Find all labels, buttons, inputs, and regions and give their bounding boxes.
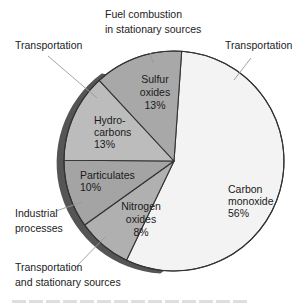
source-label-line: Transportation: [15, 39, 82, 51]
pie-chart: Carbonmonoxide56%Nitrogenoxides8%Particu…: [0, 0, 298, 305]
slice-label-line: Hydro-: [94, 114, 126, 126]
slice-label-line: Sulfur: [141, 73, 169, 85]
slice-label-line: 13%: [144, 99, 165, 111]
slice-label-line: oxides: [140, 86, 170, 98]
source-label-sulfur-oxides: Fuel combustionin stationary sources: [105, 8, 201, 35]
source-label-line: Fuel combustion: [105, 8, 182, 20]
source-label-line: and stationary sources: [15, 276, 121, 288]
source-label-line: Transportation: [15, 261, 82, 273]
source-label-line: processes: [15, 222, 63, 234]
source-label-line: Industrial: [15, 207, 58, 219]
slice-label-line: Carbon: [228, 183, 263, 195]
source-label-nitrogen-oxides: Transportationand stationary sources: [15, 261, 121, 288]
cut-off-caption: [12, 300, 247, 303]
slice-label-line: Particulates: [80, 169, 135, 181]
slice-label-line: 8%: [133, 226, 148, 238]
source-label-line: Transportation: [225, 39, 292, 51]
slice-label-line: 56%: [228, 207, 249, 219]
source-label-hydrocarbons: Transportation: [15, 39, 82, 51]
slice-label-line: Nitrogen: [121, 200, 161, 212]
source-label-particulates: Industrialprocesses: [15, 207, 63, 234]
source-label-line: in stationary sources: [105, 23, 201, 35]
slice-label-line: 13%: [94, 138, 115, 150]
slice-label-line: 10%: [80, 181, 101, 193]
slice-label-line: oxides: [126, 213, 156, 225]
source-label-carbon-monoxide: Transportation: [225, 39, 292, 51]
slice-label-line: monoxide: [228, 195, 274, 207]
slice-label-line: carbons: [94, 126, 131, 138]
leader-line-hydrocarbons: [48, 56, 97, 98]
